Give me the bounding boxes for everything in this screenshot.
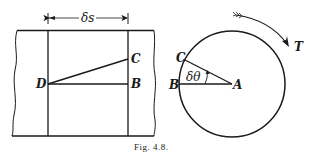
dimension-label-ds: δs	[81, 11, 94, 25]
label-D: D	[35, 77, 47, 91]
cross-section-diagram: δθ A B C T	[168, 12, 304, 137]
figure-caption: Fig. 4.8.	[134, 142, 169, 152]
dimension-arrowhead-left-icon	[49, 16, 55, 20]
label-C-left: C	[131, 52, 141, 66]
label-A: A	[232, 78, 242, 92]
label-B-left: B	[130, 77, 141, 91]
figure-canvas: δs C D B δθ A B C T Fig. 4.8.	[0, 0, 309, 158]
line-DC	[48, 59, 128, 84]
angle-label-dtheta: δθ	[186, 70, 201, 84]
left-break-line	[12, 31, 17, 137]
torque-label-T: T	[294, 40, 304, 54]
shaft-segment-diagram: δs C D B	[12, 11, 155, 136]
right-break-line	[154, 31, 156, 137]
label-B-right: B	[168, 78, 179, 92]
torque-arrowhead-icon	[282, 36, 289, 47]
label-C-right: C	[176, 51, 186, 65]
